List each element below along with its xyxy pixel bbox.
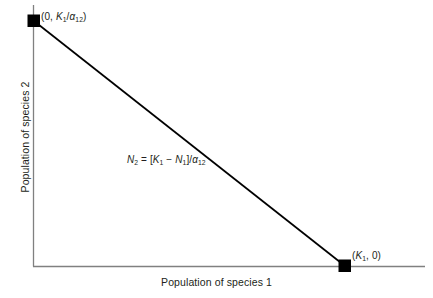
y-intercept-close-paren: ) bbox=[83, 11, 86, 22]
equation-n-subscript: 2 bbox=[134, 159, 138, 166]
marker-x-intercept bbox=[339, 260, 352, 273]
competition-isocline-chart: (0, K1/α12) N2 = [K1 − N1]/α12 (K1, 0) P… bbox=[0, 0, 433, 298]
x-axis-title: Population of species 1 bbox=[0, 276, 433, 288]
y-intercept-label: (0, K1/α12) bbox=[41, 11, 86, 22]
equation-k-var: K bbox=[153, 154, 160, 165]
equation-equals: = [ bbox=[138, 154, 153, 165]
x-intercept-label: (K1, 0) bbox=[352, 250, 381, 261]
y-axis-title: Population of species 2 bbox=[19, 57, 31, 217]
y-intercept-k-subscript: 1 bbox=[63, 16, 67, 23]
x-intercept-close-paren: ) bbox=[378, 250, 381, 261]
y-intercept-alpha-subscript: 12 bbox=[75, 16, 83, 23]
isocline-equation-label: N2 = [K1 − N1]/α12 bbox=[127, 154, 206, 165]
equation-n1-subscript: 1 bbox=[183, 159, 187, 166]
x-intercept-k-subscript: 1 bbox=[362, 255, 366, 262]
equation-k-subscript: 1 bbox=[160, 159, 164, 166]
equation-minus: − bbox=[163, 154, 175, 165]
equation-n1-var: N bbox=[175, 154, 182, 165]
marker-y-intercept bbox=[28, 15, 41, 28]
equation-alpha-subscript: 12 bbox=[198, 159, 206, 166]
y-intercept-k-var: K bbox=[56, 11, 63, 22]
isocline-line bbox=[34, 21, 345, 266]
